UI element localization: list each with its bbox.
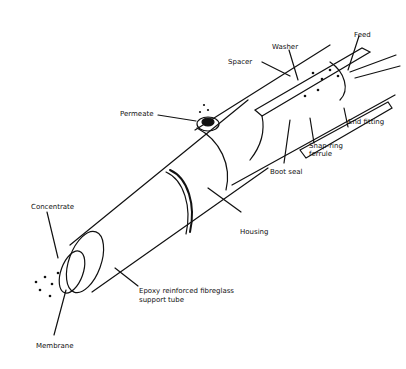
label-epoxy-line1: Epoxy reinforced fibreglass: [139, 287, 234, 295]
label-membrane: Membrane: [36, 342, 74, 350]
label-spacer: Spacer: [228, 58, 252, 66]
membrane-module-diagram: Feed Washer Spacer Permeate End fitting …: [0, 0, 406, 369]
label-permeate: Permeate: [120, 110, 154, 118]
label-boot-seal: Boot seal: [270, 168, 303, 176]
label-concentrate: Concentrate: [31, 203, 74, 211]
membrane-end: [54, 248, 90, 297]
tube-upper-edge: [70, 100, 248, 245]
label-housing: Housing: [240, 228, 268, 236]
label-washer: Washer: [272, 43, 298, 51]
label-end-fitting: End fitting: [348, 118, 384, 126]
diagram-drawing: [0, 0, 406, 369]
label-feed: Feed: [354, 31, 371, 39]
label-epoxy-line2: support tube: [139, 296, 184, 304]
label-snap-ring: Snap-ring: [309, 142, 343, 150]
label-ferrule: ferrule: [309, 150, 332, 158]
